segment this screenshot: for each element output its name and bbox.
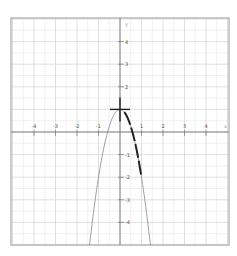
y-axis-label: y (125, 21, 128, 28)
x-tick-label: 4 (204, 123, 207, 129)
x-tick-label: 1 (140, 123, 143, 129)
x-tick-label: 3 (183, 123, 186, 129)
y-tick-label: -4 (125, 219, 130, 225)
y-tick-label: 2 (125, 84, 128, 90)
y-tick-label: -3 (125, 197, 130, 203)
x-tick-label: -1 (96, 123, 101, 129)
x-axis-label: x (224, 123, 227, 129)
x-tick-label: -2 (75, 123, 80, 129)
y-tick-label: -1 (125, 152, 130, 158)
y-tick-label: 4 (125, 39, 128, 45)
x-tick-label: -4 (32, 123, 37, 129)
graph-plot: -4-3-2-11234432-1-2-3-4 x y (0, 0, 237, 256)
y-tick-label: 3 (125, 61, 128, 67)
x-tick-label: 2 (161, 123, 164, 129)
highlighted-segment (124, 112, 141, 177)
x-tick-label: -3 (53, 123, 58, 129)
y-tick-label: -2 (125, 174, 130, 180)
